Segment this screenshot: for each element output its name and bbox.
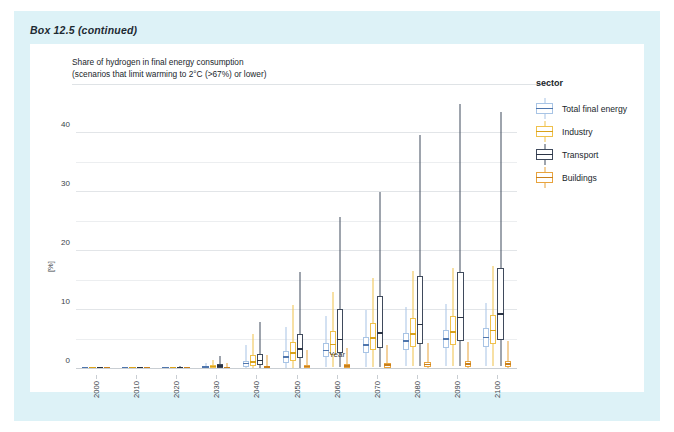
boxplot-median	[490, 330, 496, 332]
boxplot	[497, 112, 503, 369]
legend-item-buildings[interactable]: Buildings	[536, 166, 674, 189]
legend-item-label: Buildings	[562, 173, 597, 183]
x-tick-label: 2060	[332, 381, 341, 398]
legend-items: Total final energyIndustryTransportBuild…	[536, 97, 674, 189]
boxplot	[443, 304, 449, 369]
x-tick-mark	[297, 375, 298, 379]
y-tick-label: 10	[61, 297, 70, 306]
x-axis-line	[76, 368, 517, 369]
legend: sector Total final energyIndustryTranspo…	[536, 78, 674, 189]
boxplot-median	[370, 337, 376, 339]
gridline-major	[76, 250, 517, 251]
boxplot-median	[337, 339, 343, 341]
boxplot-median	[497, 313, 503, 315]
boxplot-median	[505, 363, 511, 365]
x-tick-mark	[96, 375, 97, 379]
boxplot	[457, 104, 463, 369]
boxplot	[417, 135, 423, 369]
legend-item-transport[interactable]: Transport	[536, 143, 674, 166]
boxplot-box	[497, 268, 503, 340]
x-axis-label: Year	[30, 350, 644, 359]
boxplot-median	[250, 361, 256, 363]
x-tick-label: 2100	[492, 381, 501, 398]
x-tick-label: 2090	[452, 381, 461, 398]
subtitle-divider	[72, 84, 552, 85]
x-tick-mark	[216, 375, 217, 379]
legend-item-label: Total final energy	[562, 104, 627, 114]
boxplot-median	[330, 344, 336, 346]
x-tick-mark	[337, 375, 338, 379]
boxplot-box	[337, 309, 343, 353]
boxplot-box	[457, 272, 463, 340]
boxplot	[483, 303, 489, 369]
x-tick-label: 2050	[292, 381, 301, 398]
x-tick-mark	[176, 375, 177, 379]
boxplot-median	[417, 324, 423, 326]
boxplot-median	[377, 332, 383, 334]
gridline-major	[76, 191, 517, 192]
x-tick-mark	[417, 375, 418, 379]
legend-item-label: Industry	[562, 127, 593, 137]
boxplot	[377, 192, 383, 369]
x-tick-label: 2040	[252, 381, 261, 398]
boxplot	[323, 316, 329, 369]
gridline-minor	[76, 162, 517, 163]
x-tick-mark	[377, 375, 378, 379]
x-tick-mark	[497, 375, 498, 379]
legend-boxplot-icon	[536, 144, 553, 165]
x-tick-label: 2030	[212, 381, 221, 398]
boxplot-median	[465, 363, 471, 365]
y-tick-label: 20	[61, 238, 70, 247]
x-tick-label: 2020	[172, 381, 181, 398]
screenshot-root: Box 12.5 (continued) Share of hydrogen i…	[0, 0, 674, 432]
legend-item-label: Transport	[562, 150, 598, 160]
boxplot-median	[384, 364, 390, 366]
x-tick-label: 2010	[132, 381, 141, 398]
boxplot-median	[257, 360, 263, 362]
legend-item-industry[interactable]: Industry	[536, 120, 674, 143]
legend-boxplot-icon	[536, 121, 553, 142]
boxplot-median	[410, 333, 416, 335]
legend-title: sector	[536, 78, 674, 88]
figure-card: Share of hydrogen in final energy consum…	[30, 44, 644, 392]
x-tick-mark	[136, 375, 137, 379]
plot-area: 010203040 200020102020203020402050206020…	[76, 104, 517, 369]
boxplot	[363, 310, 369, 369]
boxplot-median	[217, 365, 223, 367]
boxplot-median	[243, 363, 249, 365]
x-tick-label: 2080	[412, 381, 421, 398]
boxplot-box	[377, 296, 383, 348]
boxplot-median	[363, 344, 369, 346]
boxplot-box	[417, 276, 423, 344]
boxplot	[283, 327, 289, 369]
boxplot-median	[443, 338, 449, 340]
boxplot-median	[450, 331, 456, 333]
box-title: Box 12.5 (continued)	[30, 24, 137, 36]
x-tick-label: 2070	[372, 381, 381, 398]
gridline-major	[76, 132, 517, 133]
boxplot-median	[304, 366, 310, 368]
boxplot	[257, 322, 263, 369]
x-tick-mark	[256, 375, 257, 379]
legend-item-total-final-energy[interactable]: Total final energy	[536, 97, 674, 120]
y-axis-label: [%]	[46, 261, 55, 272]
boxplot-median	[403, 340, 409, 342]
boxplot	[290, 305, 296, 369]
x-tick-mark	[457, 375, 458, 379]
y-tick-label: 40	[61, 120, 70, 129]
boxplot-median	[457, 317, 463, 319]
figure-subtitle: Share of hydrogen in final energy consum…	[72, 57, 266, 81]
boxplot-median	[424, 364, 430, 366]
boxplot-median	[344, 365, 350, 367]
boxplot-whisker	[325, 316, 326, 367]
boxplot	[403, 307, 409, 369]
gridline-minor	[76, 221, 517, 222]
boxplot-median	[483, 337, 489, 339]
legend-boxplot-icon	[536, 167, 553, 188]
boxplot-median	[210, 366, 216, 368]
boxplot	[337, 217, 343, 369]
legend-boxplot-icon	[536, 98, 553, 119]
x-tick-label: 2000	[92, 381, 101, 398]
y-tick-label: 30	[61, 179, 70, 188]
